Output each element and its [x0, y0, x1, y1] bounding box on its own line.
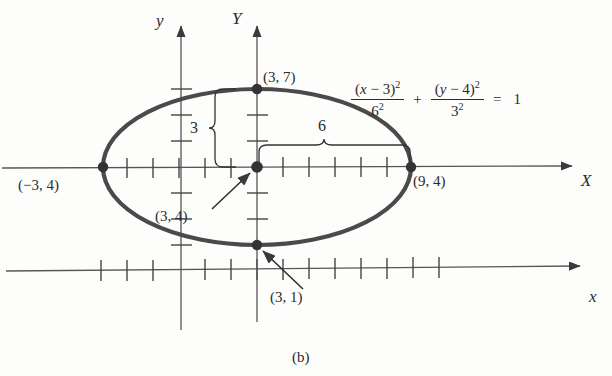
dimension-label-semi-major: 6 — [318, 118, 326, 134]
equation-plus-sign: + — [413, 91, 421, 108]
X-axis-label: X — [581, 172, 591, 189]
dimension-label-semi-minor: 3 — [190, 120, 198, 136]
den-base-x: 6 — [371, 103, 379, 119]
equation-numerator-y: (y − 4)2 — [431, 79, 484, 99]
equation-fraction-y: (y − 4)2 32 — [431, 79, 484, 120]
den-exp-x: 2 — [379, 101, 384, 112]
equation-equals-sign: = — [493, 91, 501, 108]
den-exp-y: 2 — [459, 101, 464, 112]
point-label-vertex-bottom: (3, 1) — [270, 290, 303, 305]
X-axis-line — [2, 166, 572, 168]
x-axis-lower-line — [6, 266, 580, 271]
minus-y: − — [450, 81, 458, 97]
minus-x: − — [370, 81, 378, 97]
x-axis-label: x — [589, 288, 597, 305]
equation-result: 1 — [513, 91, 521, 108]
equation-numerator-x: (x − 3)2 — [351, 79, 404, 99]
ellipse-figure: y Y X x (3, 7) (−3, 4) (3, 4) (9, 4) (3,… — [0, 0, 612, 376]
point-marker-vertex-bottom — [252, 240, 262, 250]
brace-semi-minor — [209, 89, 236, 167]
ellipse-equation: (x − 3)2 62 + (y − 4)2 32 = 1 — [348, 79, 527, 120]
equation-denominator-y: 32 — [447, 100, 468, 120]
exp-x: 2 — [395, 79, 400, 90]
const-y: 4 — [462, 81, 470, 97]
var-y: y — [440, 81, 447, 97]
Y-axis-label: Y — [232, 10, 241, 27]
point-marker-center — [251, 161, 263, 173]
den-base-y: 3 — [451, 103, 459, 119]
point-label-center: (3, 4) — [155, 209, 188, 224]
figure-canvas — [0, 0, 612, 376]
point-label-vertex-top: (3, 7) — [263, 70, 296, 85]
leader-arrow-center — [212, 173, 250, 209]
x-axis-lower — [6, 257, 580, 281]
equation-fraction-x: (x − 3)2 62 — [351, 79, 404, 120]
y-axis-upper — [171, 26, 192, 330]
figure-caption: (b) — [292, 350, 310, 365]
X-axis-translated — [2, 157, 572, 178]
point-marker-vertex-top — [252, 84, 262, 94]
point-label-vertex-left: (−3, 4) — [18, 178, 59, 193]
point-marker-vertex-right — [406, 162, 416, 172]
point-label-vertex-right: (9, 4) — [413, 174, 446, 189]
var-x: x — [360, 81, 367, 97]
exp-y: 2 — [475, 79, 480, 90]
leader-arrow-bottom-vertex — [263, 251, 303, 289]
equation-denominator-x: 62 — [367, 100, 388, 120]
point-marker-vertex-left — [98, 162, 108, 172]
y-axis-label: y — [156, 12, 164, 29]
